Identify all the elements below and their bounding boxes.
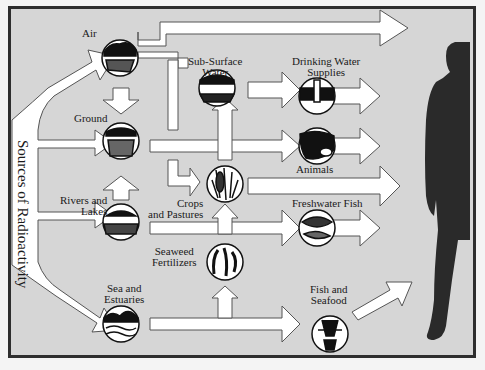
arrow-air-to-crops [168, 60, 178, 130]
air-icon [102, 40, 138, 76]
sea-estuaries-icon [103, 306, 139, 342]
label-sea-estuaries: Sea andEstuaries [104, 283, 144, 305]
label-drinking-water: Drinking WaterSupplies [292, 56, 360, 78]
arrow-freshwater-to-human [332, 210, 380, 246]
arrow-sea-to-seaweed [212, 286, 238, 318]
animals-icon [299, 128, 335, 164]
fish-seafood-icon [312, 316, 348, 352]
ground-icon [103, 123, 139, 159]
arrow-animals-to-human [332, 128, 380, 164]
rivers-lakes-icon [103, 204, 139, 240]
arrow-ground-to-crops [168, 160, 200, 196]
crops-pastures-icon [207, 166, 243, 202]
flow-arrows [0, 0, 485, 370]
label-rivers-lakes: Rivers andLakes [60, 195, 107, 217]
label-fish-seafood: Fish andSeafood [310, 284, 348, 306]
label-ground: Ground [74, 113, 108, 124]
label-animals: Animals [296, 164, 333, 175]
arrow-drinking-to-human [332, 78, 380, 114]
label-air: Air [82, 28, 97, 39]
label-crops-pastures: Cropsand Pastures [148, 198, 203, 220]
seaweed-fertilizer-icon [207, 244, 243, 280]
title-sources-of-radioactivity: Sources of Radioactivity [14, 140, 31, 288]
arrow-air-to-subsurface [138, 52, 188, 68]
arrow-air-to-human [138, 10, 408, 46]
label-subsurface-water: Sub-SurfaceWater [188, 56, 242, 78]
label-freshwater-fish: Freshwater Fish [292, 198, 363, 209]
human-silhouette [425, 42, 470, 340]
arrow-seafood-to-human [352, 282, 412, 320]
label-seaweed-fertilizers: SeaweedFertilizers [152, 246, 197, 268]
freshwater-fish-icon [299, 210, 335, 246]
arrow-rivers-to-ground [103, 176, 139, 200]
arrow-air-to-ground [103, 88, 139, 114]
drinking-water-icon [299, 78, 335, 114]
